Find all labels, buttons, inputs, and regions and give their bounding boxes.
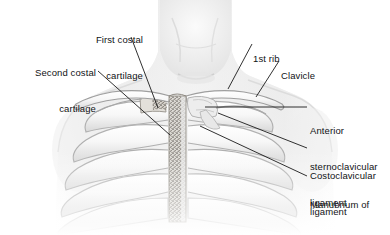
label-line: cartilage [0, 103, 96, 115]
leader-manubrium [200, 126, 307, 176]
leader-first-rib [228, 44, 252, 89]
label-line: Manubrium of [310, 199, 369, 211]
label-second-costal-cartilage: Second costal cartilage [0, 43, 96, 139]
label-line: Clavicle [281, 70, 315, 82]
label-first-rib: 1st rib [253, 29, 280, 89]
label-line: Second costal [0, 67, 96, 79]
label-clavicle: Clavicle [281, 46, 315, 106]
leader-costoclavicular-ligament [218, 113, 307, 148]
label-line: 1st rib [253, 53, 280, 65]
label-manubrium-of-the-sternum: Manubrium of the sternum [310, 175, 369, 235]
figure-container: First costal cartilage Second costal car… [0, 0, 390, 235]
label-line: Anterior [310, 125, 378, 137]
